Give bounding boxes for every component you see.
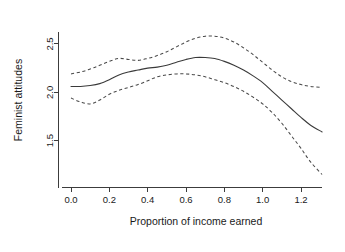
- feminist-attitudes-line-chart: 0.00.20.40.60.81.01.21.52.02.5Proportion…: [0, 0, 345, 252]
- series-layer: [71, 36, 322, 175]
- x-tick-label: 1.2: [294, 194, 307, 205]
- confidence-band-lower: [71, 74, 322, 175]
- axes-layer: [54, 32, 322, 192]
- labels-layer: 0.00.20.40.60.81.01.21.52.02.5Proportion…: [12, 37, 308, 227]
- x-axis-title: Proportion of income earned: [130, 215, 263, 227]
- x-tick-label: 0.0: [64, 194, 77, 205]
- y-tick-label: 2.0: [44, 86, 55, 99]
- y-tick-label: 2.5: [44, 37, 55, 50]
- y-tick-label: 1.5: [44, 134, 55, 147]
- x-tick-label: 0.4: [141, 194, 154, 205]
- x-tick-label: 0.2: [103, 194, 116, 205]
- y-axis-title: Feminist attitudes: [12, 59, 24, 141]
- chart-container: 0.00.20.40.60.81.01.21.52.02.5Proportion…: [0, 0, 345, 252]
- x-tick-label: 0.6: [179, 194, 192, 205]
- x-tick-label: 0.8: [218, 194, 231, 205]
- x-tick-label: 1.0: [256, 194, 269, 205]
